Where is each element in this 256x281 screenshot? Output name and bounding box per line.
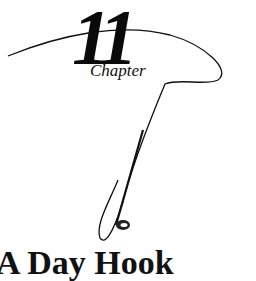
chapter-title: A Day Hook [0,246,256,280]
chapter-label: Chapter [90,61,146,81]
